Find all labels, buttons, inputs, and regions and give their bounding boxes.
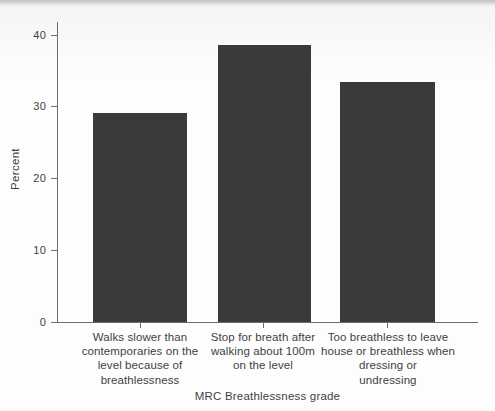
x-category-label-1-line-4: breathlessness	[78, 373, 202, 387]
x-category-label-1-line-3: level because of	[78, 358, 202, 372]
y-axis-line	[57, 22, 58, 323]
x-category-label-2-line-2: walking about 100m	[201, 344, 325, 358]
x-category-label-3-line-3: dressing or	[320, 358, 456, 372]
y-tick-label-0: 0	[20, 316, 46, 328]
y-tick-label-40: 40	[20, 29, 46, 41]
y-tick-10	[51, 250, 57, 251]
x-category-label-1: Walks slower than contemporaries on the …	[78, 330, 202, 387]
x-category-label-2: Stop for breath after walking about 100m…	[201, 330, 325, 373]
y-tick-label-30: 30	[20, 100, 46, 112]
scan-artifact-band	[0, 0, 495, 6]
x-category-label-3-line-4: undressing	[320, 373, 456, 387]
y-tick-label-10: 10	[20, 244, 46, 256]
bar-walks-slower	[93, 113, 187, 322]
x-category-label-3: Too breathless to leave house or breathl…	[320, 330, 456, 387]
x-tick-2	[263, 322, 264, 328]
x-category-label-1-line-1: Walks slower than	[78, 330, 202, 344]
x-tick-1	[140, 322, 141, 328]
y-tick-30	[51, 106, 57, 107]
x-tick-3	[387, 322, 388, 328]
x-category-label-3-line-1: Too breathless to leave	[320, 330, 456, 344]
x-category-label-2-line-1: Stop for breath after	[201, 330, 325, 344]
bar-stop-for-breath	[218, 45, 311, 322]
y-axis-title: Percent	[9, 124, 21, 214]
chart-figure: 40 30 20 10 0 Percent Walks slower than …	[0, 0, 495, 411]
y-tick-20	[51, 178, 57, 179]
y-tick-40	[51, 35, 57, 36]
bar-too-breathless	[340, 82, 435, 322]
x-category-label-1-line-2: contemporaries on the	[78, 344, 202, 358]
x-category-label-2-line-3: on the level	[201, 358, 325, 372]
y-tick-label-20: 20	[20, 172, 46, 184]
x-axis-line	[57, 322, 478, 323]
x-category-label-3-line-2: house or breathless when	[320, 344, 456, 358]
y-tick-0	[51, 322, 57, 323]
x-axis-title: MRC Breathlessness grade	[57, 390, 478, 402]
